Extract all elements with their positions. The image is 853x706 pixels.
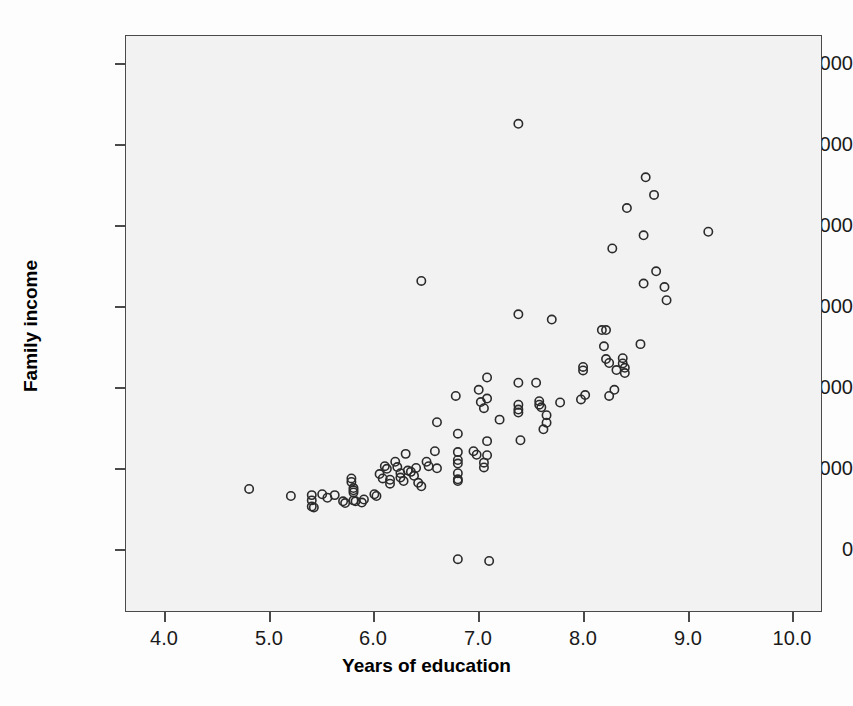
y-axis-title: Family income [20,226,42,426]
x-tick-mark-9 [688,612,690,622]
x-tick-mark-7 [478,612,480,622]
x-tick-mark-5 [269,612,271,622]
scatter-plot-figure: 6000 5000 4000 3000 2000 1000 0 4.0 5.0 … [0,0,853,706]
data-point [652,267,660,275]
data-point [391,458,399,466]
y-tick-mark-3000 [115,306,125,308]
data-point [556,398,564,406]
x-tick-label-8: 8.0 [543,628,623,648]
data-point [516,436,524,444]
data-point [514,120,522,128]
data-point [621,369,629,377]
data-point [639,279,647,287]
data-point [431,447,439,455]
data-point [660,283,668,291]
data-point [600,342,608,350]
x-tick-mark-6 [373,612,375,622]
data-point [639,231,647,239]
y-tick-mark-4000 [115,225,125,227]
data-point [381,462,389,470]
y-tick-mark-0 [115,549,125,551]
data-point [532,379,540,387]
data-point [610,386,618,394]
data-point [636,340,644,348]
x-axis-title: Years of education [0,655,853,677]
data-point [704,228,712,236]
x-tick-label-10: 10.0 [752,628,832,648]
data-point [245,485,253,493]
data-point [341,499,349,507]
data-point [495,415,503,423]
y-tick-mark-5000 [115,144,125,146]
data-point [454,555,462,563]
data-point [475,386,483,394]
data-points-layer [126,36,821,611]
data-point [483,451,491,459]
data-point [548,315,556,323]
data-point [608,244,616,252]
y-tick-mark-6000 [115,63,125,65]
plot-area [125,35,822,612]
x-tick-mark-4 [164,612,166,622]
y-tick-mark-1000 [115,468,125,470]
data-point [331,491,339,499]
data-point [287,492,295,500]
data-point [483,437,491,445]
x-tick-mark-10 [792,612,794,622]
data-point [433,418,441,426]
x-tick-label-7: 7.0 [438,628,518,648]
data-point [641,173,649,181]
x-tick-label-6: 6.0 [333,628,413,648]
x-tick-label-9: 9.0 [648,628,728,648]
x-tick-label-4: 4.0 [124,628,204,648]
data-point [650,191,658,199]
x-tick-label-5: 5.0 [229,628,309,648]
y-tick-mark-2000 [115,387,125,389]
data-point [454,429,462,437]
data-point [662,296,670,304]
data-point [623,204,631,212]
data-point [383,465,391,473]
data-point [483,373,491,381]
data-point [433,464,441,472]
data-point [401,450,409,458]
x-tick-mark-8 [583,612,585,622]
data-point [514,379,522,387]
data-point [372,492,380,500]
data-point [452,392,460,400]
data-point [417,277,425,285]
data-point [485,557,493,565]
data-point [514,310,522,318]
